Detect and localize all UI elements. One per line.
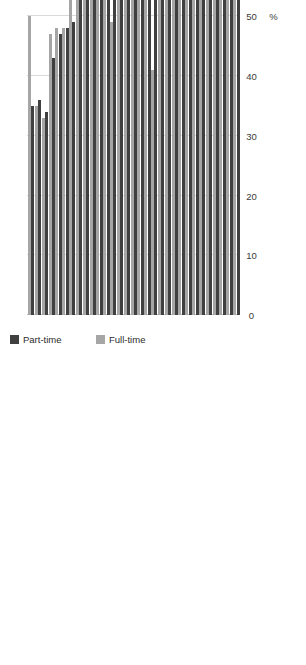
- bar-group: [34, 0, 41, 315]
- bar-group: [136, 0, 143, 315]
- bar-group: [75, 0, 82, 315]
- bar-group: [164, 0, 171, 315]
- bar-group: [102, 0, 109, 315]
- bar-group: [184, 0, 191, 315]
- axis-tick-0: 0: [243, 310, 261, 321]
- bar-group: [95, 0, 102, 315]
- value-axis-label: %: [234, 11, 306, 22]
- bar-group: [109, 0, 116, 315]
- bar-group: [27, 0, 34, 315]
- bar-group: [130, 0, 137, 315]
- bar-group: [212, 0, 219, 315]
- bar-group: [123, 0, 130, 315]
- legend-swatch-icon: [10, 335, 19, 344]
- chart-rotated-canvas: Part-timeFull-time 010203040506070809010…: [0, 0, 305, 360]
- bar-group: [54, 0, 61, 315]
- legend-item-full-time[interactable]: Full-time: [96, 334, 145, 345]
- bar-group: [116, 0, 123, 315]
- bar-group: [198, 0, 205, 315]
- bar-group: [191, 0, 198, 315]
- bar-group: [41, 0, 48, 315]
- bar-part-time: [237, 0, 240, 315]
- axis-tick-20: 20: [243, 190, 261, 201]
- bar-group: [150, 0, 157, 315]
- bar-group: [232, 0, 239, 315]
- legend-label: Full-time: [109, 334, 145, 345]
- bar-group: [61, 0, 68, 315]
- bar-group: [82, 0, 89, 315]
- bar-group: [225, 0, 232, 315]
- bar-group: [143, 0, 150, 315]
- bar-group: [89, 0, 96, 315]
- legend-label: Part-time: [23, 334, 62, 345]
- bar-group: [177, 0, 184, 315]
- chart-figure: Part-timeFull-time 010203040506070809010…: [0, 0, 305, 665]
- legend-swatch-icon: [96, 335, 105, 344]
- bar-group: [205, 0, 212, 315]
- axis-tick-10: 10: [243, 250, 261, 261]
- bar-group: [171, 0, 178, 315]
- plot-area: [27, 0, 239, 315]
- bar-group: [157, 0, 164, 315]
- bar-group: [218, 0, 225, 315]
- legend-item-part-time[interactable]: Part-time: [10, 334, 62, 345]
- axis-tick-40: 40: [243, 71, 261, 82]
- bar-group: [68, 0, 75, 315]
- axis-tick-30: 30: [243, 130, 261, 141]
- bar-group: [48, 0, 55, 315]
